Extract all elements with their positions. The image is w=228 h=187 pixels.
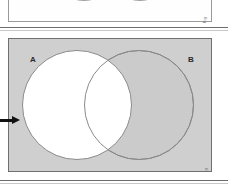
previous-panel-corner-tag: Fig [203, 17, 207, 23]
section-divider-bottom-shadow [0, 183, 228, 184]
set-label-a: A [30, 56, 36, 64]
previous-exercise-panel: Fig [8, 0, 212, 22]
venn-circle-b-outline [84, 50, 194, 160]
figure-corner-tag: Fig [204, 168, 208, 172]
venn-diagram-panel: A B Fig [8, 38, 212, 172]
previous-venn-circle-b [109, 0, 171, 1]
pointer-arrow-icon [0, 116, 20, 125]
previous-exercise-panel-inner [9, 0, 211, 21]
section-divider-top [0, 27, 228, 28]
set-label-b: B [188, 56, 194, 64]
previous-venn-circle-a [53, 0, 115, 1]
section-divider-top-shadow [0, 30, 228, 31]
figure-page: Fig A B Fig [0, 0, 228, 187]
section-divider-bottom [0, 180, 228, 181]
arrow-head [12, 116, 20, 124]
